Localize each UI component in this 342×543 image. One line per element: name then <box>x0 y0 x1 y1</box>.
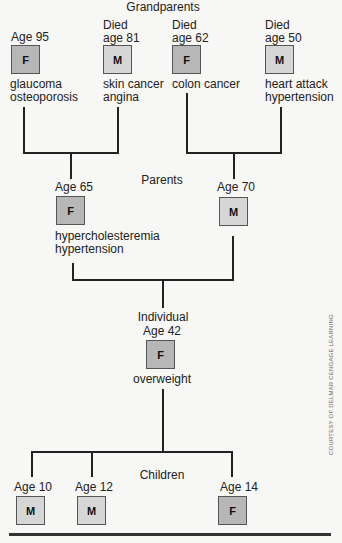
connector-line <box>70 152 72 179</box>
condition-label: hypercholesteremia <box>55 229 160 243</box>
connector-line <box>91 451 93 477</box>
female-box: F <box>56 196 85 225</box>
age-label: age 50 <box>265 31 302 45</box>
age-label: Age 42 <box>143 324 181 338</box>
male-box: M <box>16 496 45 525</box>
connector-line <box>186 93 188 154</box>
age-label: age 81 <box>103 31 140 45</box>
connector-line <box>72 279 234 281</box>
age-label: age 62 <box>172 31 209 45</box>
connector-line <box>31 451 233 453</box>
connector-line <box>23 107 25 154</box>
condition-label: osteoporosis <box>10 90 78 104</box>
male-box: M <box>103 45 132 74</box>
male-box: M <box>77 496 106 525</box>
condition-label: overweight <box>133 372 191 386</box>
grandparents-heading: Grandparents <box>126 0 199 14</box>
female-box: F <box>218 496 247 525</box>
condition-label: skin cancer <box>103 77 164 91</box>
connector-line <box>280 107 282 154</box>
connector-line <box>162 279 164 308</box>
age-label: Age 10 <box>14 480 52 494</box>
condition-label: colon cancer <box>172 77 240 91</box>
female-box: F <box>11 45 40 74</box>
connector-line <box>117 107 119 154</box>
age-label: Age 14 <box>220 480 258 494</box>
female-box: F <box>172 45 201 74</box>
connector-line <box>162 389 164 453</box>
status-label: Died <box>265 18 290 32</box>
children-heading: Children <box>140 468 185 482</box>
condition-label: hypertension <box>265 90 334 104</box>
age-label: Age 12 <box>75 480 113 494</box>
condition-label: heart attack <box>265 77 328 91</box>
connector-line <box>232 236 234 281</box>
age-label: Age 65 <box>55 180 93 194</box>
age-label: Age 95 <box>11 30 49 44</box>
condition-label: hypertension <box>55 242 124 256</box>
divider-rule <box>9 533 331 536</box>
female-box: F <box>146 340 175 369</box>
status-label: Died <box>172 18 197 32</box>
connector-line <box>231 451 233 477</box>
condition-label: angina <box>103 90 139 104</box>
parents-heading: Parents <box>141 173 182 187</box>
connector-line <box>31 451 33 477</box>
male-box: M <box>219 197 248 226</box>
male-box: M <box>265 45 294 74</box>
connector-line <box>233 152 235 179</box>
status-label: Died <box>103 18 128 32</box>
credit-text: COURTESY OF DELMAR CENGAGE LEARNING <box>328 314 334 455</box>
condition-label: glaucoma <box>10 77 62 91</box>
age-label: Age 70 <box>217 180 255 194</box>
individual-heading: Individual <box>138 310 189 324</box>
